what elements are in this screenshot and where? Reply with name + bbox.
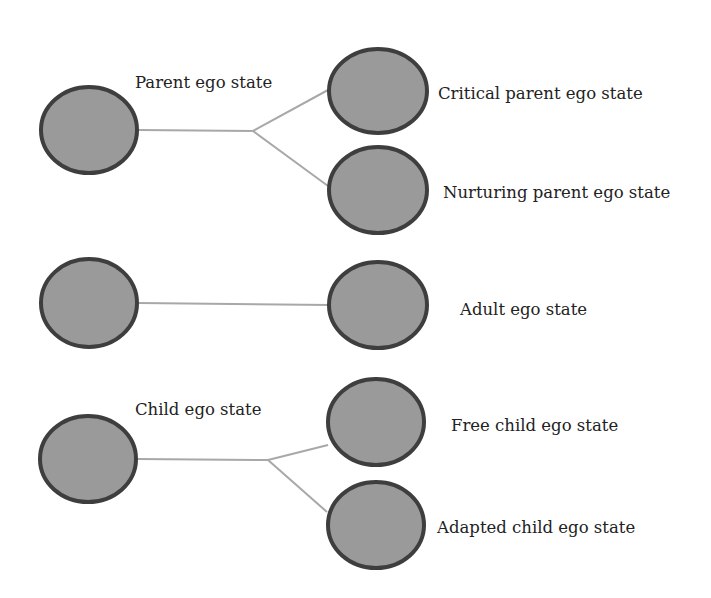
adult-group: Adult ego state [41, 259, 587, 348]
ego-state-diagram: Parent ego state Critical parent ego sta… [0, 0, 711, 598]
nurturing-parent-label: Nurturing parent ego state [443, 183, 670, 202]
child-to-free-connector [268, 445, 328, 460]
adult-source-node [41, 259, 137, 347]
critical-parent-label: Critical parent ego state [438, 84, 643, 103]
parent-to-critical-connector [253, 90, 328, 131]
parent-ego-state-label: Parent ego state [135, 73, 272, 92]
child-connector [138, 459, 268, 460]
adult-ego-state-node [329, 262, 427, 348]
parent-to-nurturing-connector [253, 131, 328, 186]
nurturing-parent-node [329, 147, 427, 233]
child-ego-state-label: Child ego state [135, 400, 261, 419]
parent-connector [139, 130, 253, 131]
child-group: Child ego state Free child ego state Ada… [40, 379, 635, 568]
free-child-node [328, 379, 424, 465]
free-child-label: Free child ego state [451, 416, 618, 435]
parent-group: Parent ego state Critical parent ego sta… [41, 49, 670, 233]
child-to-adapted-connector [268, 460, 327, 512]
adult-ego-state-label: Adult ego state [459, 300, 587, 319]
critical-parent-node [329, 49, 427, 133]
adult-connector [139, 303, 330, 305]
parent-ego-state-node [41, 87, 137, 173]
child-ego-state-node [40, 416, 136, 502]
adapted-child-node [328, 482, 424, 568]
adapted-child-label: Adapted child ego state [436, 518, 635, 537]
